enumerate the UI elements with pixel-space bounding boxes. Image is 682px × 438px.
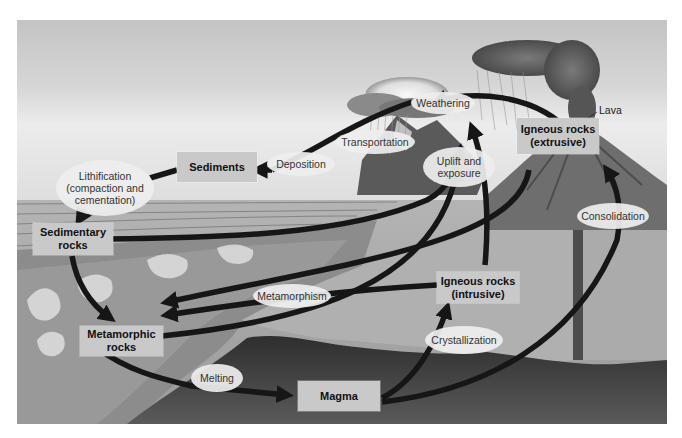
box-metamorphic-rocks: Metamorphic rocks [80,326,163,356]
box-igneous-extrusive: Igneous rocks (extrusive) [517,118,599,154]
igneous-intrusive-label: Igneous rocks [441,275,516,288]
oval-weathering: Weathering [411,92,475,114]
oval-crystallization: Crystallization [425,326,503,354]
oval-metamorphism: Metamorphism [253,284,331,308]
oval-deposition: Deposition [267,152,335,176]
transportation-label: Transportation [341,136,408,148]
magma-label: Magma [320,390,358,403]
sedimentary-sublabel: rocks [58,239,87,252]
box-sedimentary-rocks: Sedimentary rocks [33,223,113,255]
oval-melting: Melting [191,364,243,392]
box-igneous-intrusive: Igneous rocks (intrusive) [437,272,519,303]
consolidation-label: Consolidation [581,210,645,222]
sedimentary-label: Sedimentary [40,226,106,239]
sediments-label: Sediments [189,161,245,174]
uplift-sublabel: exposure [437,167,480,179]
oval-consolidation: Consolidation [577,203,649,229]
deposition-label: Deposition [276,158,326,170]
oval-transportation: Transportation [335,130,415,154]
metamorphic-label: Metamorphic [87,328,155,341]
crystallization-label: Crystallization [431,334,496,346]
box-magma: Magma [298,381,380,411]
lithification-label: Lithification [79,170,132,182]
lithification-sublabel-2: cementation) [75,194,136,206]
oval-uplift-exposure: Uplift and exposure [423,147,495,187]
box-sediments: Sediments [177,152,257,182]
uplift-label: Uplift and [437,155,481,167]
rock-cycle-illustration [17,20,667,424]
rock-cycle-diagram: Sediments Igneous rocks (extrusive) Sedi… [17,20,667,424]
lava-annotation: Lava [599,104,622,116]
lithification-sublabel-1: (compaction and [66,182,144,194]
melting-label: Melting [200,372,234,384]
metamorphic-sublabel: rocks [107,341,136,354]
oval-lithification: Lithification (compaction and cementatio… [56,160,154,216]
metamorphism-label: Metamorphism [257,290,326,302]
igneous-extrusive-sublabel: (extrusive) [530,136,586,149]
igneous-extrusive-label: Igneous rocks [521,123,596,136]
igneous-intrusive-sublabel: (intrusive) [451,288,504,301]
weathering-label: Weathering [416,97,470,109]
